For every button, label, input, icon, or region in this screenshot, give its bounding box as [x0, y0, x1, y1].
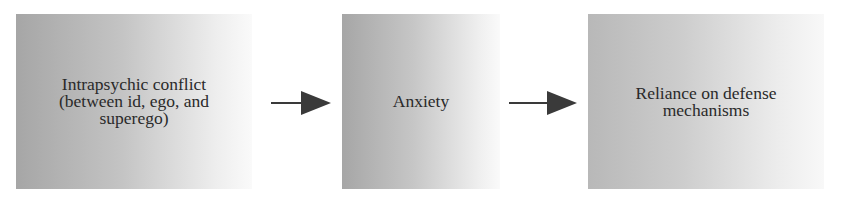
node-label-line: superego) [59, 110, 209, 127]
node-label: Anxiety [393, 93, 449, 110]
node-anxiety: Anxiety [342, 14, 500, 189]
node-intrapsychic-conflict: Intrapsychic conflict (between id, ego, … [16, 14, 252, 189]
node-label: Intrapsychic conflict (between id, ego, … [59, 76, 209, 127]
node-label-line: Reliance on defense [636, 85, 777, 102]
node-defense-mechanisms: Reliance on defense mechanisms [588, 14, 824, 189]
node-label-line: Anxiety [393, 93, 449, 110]
node-label-line: mechanisms [636, 102, 777, 119]
node-label: Reliance on defense mechanisms [636, 85, 777, 119]
arrow-right-icon [271, 91, 331, 115]
arrow-right-icon [509, 91, 577, 115]
